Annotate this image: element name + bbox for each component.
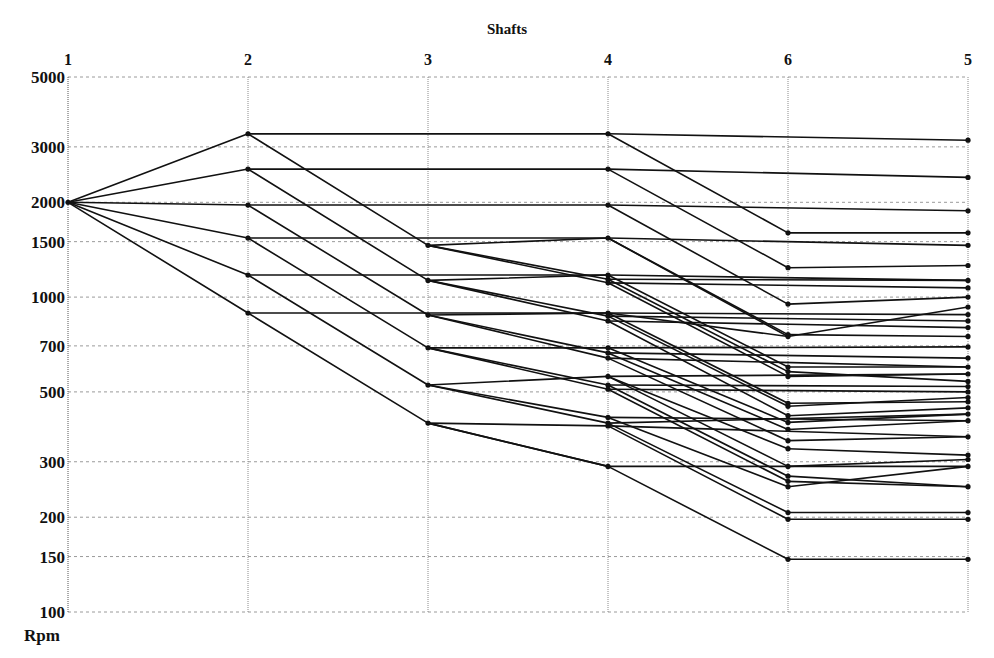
speed-point (785, 230, 790, 235)
speed-point (605, 236, 610, 241)
speed-ray (68, 202, 248, 275)
speed-point (245, 131, 250, 136)
speed-ray (788, 307, 968, 336)
y-tick-label: 1000 (31, 288, 65, 307)
speed-ray (248, 134, 428, 246)
speed-ray (68, 202, 248, 238)
speed-point (785, 265, 790, 270)
speed-point (605, 350, 610, 355)
speed-ray (608, 466, 788, 559)
speed-point (965, 318, 970, 323)
y-tick-label: 700 (40, 337, 66, 356)
speed-point (965, 379, 970, 384)
speed-point (785, 404, 790, 409)
speed-point (965, 295, 970, 300)
gridlines (68, 77, 968, 612)
speed-ray (788, 437, 968, 441)
speed-point (245, 203, 250, 208)
speed-ray (68, 202, 248, 313)
speed-point (965, 384, 970, 389)
speed-ray (428, 315, 608, 358)
speed-point (245, 310, 250, 315)
speed-point (785, 369, 790, 374)
speed-ray (428, 423, 608, 466)
speed-ray (788, 421, 968, 430)
speed-ray-diagram: 50003000200015001000700500300200150100 1… (0, 0, 994, 658)
speed-point (785, 374, 790, 379)
speed-point (965, 434, 970, 439)
speed-point (605, 464, 610, 469)
speed-point (605, 318, 610, 323)
speed-ray (608, 385, 968, 387)
speed-point (965, 230, 970, 235)
speed-point (965, 457, 970, 462)
speed-point (425, 421, 430, 426)
speed-point (785, 510, 790, 515)
speed-ray (608, 376, 788, 448)
speed-point (965, 371, 970, 376)
y-tick-label: 150 (40, 548, 66, 567)
speed-point (605, 356, 610, 361)
speed-point (605, 387, 610, 392)
speed-point (965, 356, 970, 361)
speed-ray (788, 449, 968, 455)
speed-ray (68, 134, 248, 202)
speed-point (425, 313, 430, 318)
speed-point (425, 345, 430, 350)
speed-point (425, 243, 430, 248)
speed-point (965, 418, 970, 423)
speed-point (605, 374, 610, 379)
speed-point (965, 325, 970, 330)
speed-ray (428, 385, 608, 417)
speed-point (785, 438, 790, 443)
shaft-label: 5 (964, 51, 972, 68)
speed-point (785, 413, 790, 418)
speed-ray (788, 459, 968, 466)
speed-point (605, 203, 610, 208)
y-axis-ticks: 50003000200015001000700500300200150100 (31, 68, 65, 622)
speed-point (245, 236, 250, 241)
speed-ray (68, 169, 248, 202)
speed-ray (428, 385, 608, 423)
speed-point (785, 557, 790, 562)
speed-point (785, 334, 790, 339)
speed-point (965, 389, 970, 394)
speed-point (605, 131, 610, 136)
speed-point (965, 510, 970, 515)
speed-point (605, 314, 610, 319)
shaft-label: 3 (424, 51, 432, 68)
speed-point (965, 263, 970, 268)
speed-ray (788, 265, 968, 267)
speed-ray (788, 335, 968, 337)
y-tick-label: 500 (40, 383, 66, 402)
shaft-label: 4 (604, 51, 612, 68)
speed-point (65, 200, 70, 205)
speed-point (425, 278, 430, 283)
speed-point (965, 175, 970, 180)
speed-point (965, 412, 970, 417)
speed-ray (248, 205, 428, 315)
y-tick-label: 5000 (31, 68, 65, 87)
y-tick-label: 200 (40, 508, 66, 527)
speed-point (965, 285, 970, 290)
speed-rays (68, 134, 968, 559)
speed-point (425, 382, 430, 387)
speed-point (785, 464, 790, 469)
speed-point (785, 302, 790, 307)
speed-ray (608, 321, 788, 416)
speed-point (965, 484, 970, 489)
speed-point (965, 364, 970, 369)
speed-point (965, 243, 970, 248)
speed-ray (428, 423, 608, 426)
speed-ray (608, 426, 788, 519)
speed-point (785, 474, 790, 479)
speed-point (965, 312, 970, 317)
y-tick-label: 300 (40, 453, 66, 472)
shaft-label: 1 (64, 51, 72, 68)
speed-point (245, 272, 250, 277)
speed-point (785, 484, 790, 489)
shaft-label: 6 (784, 51, 792, 68)
speed-point (965, 557, 970, 562)
speed-ray (248, 169, 428, 280)
speed-point (785, 427, 790, 432)
